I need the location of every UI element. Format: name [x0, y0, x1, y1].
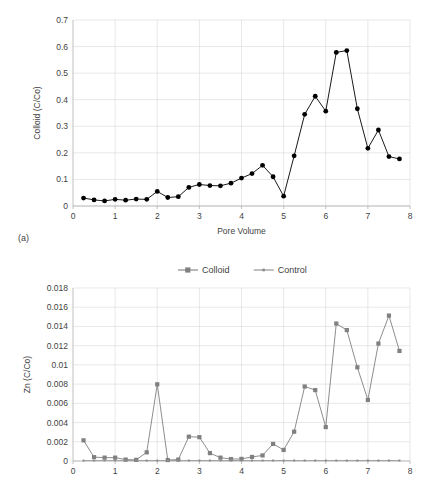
- y-tick-label: 0.3: [56, 121, 68, 131]
- legend-label-control: Control: [278, 265, 307, 275]
- data-point: [218, 183, 223, 188]
- data-point: [123, 198, 128, 203]
- data-point: [356, 460, 358, 462]
- y-tick-label: 0.006: [47, 398, 69, 408]
- x-tick-label: 4: [239, 211, 244, 221]
- data-point: [271, 174, 276, 179]
- data-point: [334, 50, 339, 55]
- y-tick-label: 0.002: [47, 437, 69, 447]
- legend-marker-colloid: [185, 267, 190, 272]
- data-point: [102, 456, 106, 460]
- data-point: [250, 455, 254, 459]
- data-point: [397, 349, 401, 353]
- data-point: [187, 435, 191, 439]
- data-point: [367, 460, 369, 462]
- data-point: [177, 460, 179, 462]
- data-point: [292, 153, 297, 158]
- y-tick-label: 0.4: [56, 95, 68, 105]
- data-point: [197, 182, 202, 187]
- data-point: [323, 109, 328, 114]
- data-point: [376, 341, 380, 345]
- y-tick-label: 0.01: [51, 360, 68, 370]
- data-point: [324, 425, 328, 429]
- data-point: [209, 460, 211, 462]
- data-point: [346, 460, 348, 462]
- data-point: [104, 459, 106, 461]
- data-point: [283, 460, 285, 462]
- data-point: [92, 455, 96, 459]
- y-tick-label: 0.008: [47, 379, 69, 389]
- data-point: [303, 384, 307, 388]
- colloid-line-chart: 00.10.20.30.40.50.60.7012345678Colloid (…: [0, 0, 429, 250]
- data-point: [218, 456, 222, 460]
- data-point: [208, 183, 213, 188]
- x-tick-label: 1: [113, 211, 118, 221]
- data-point: [93, 460, 95, 462]
- data-point: [219, 460, 221, 462]
- data-point: [230, 460, 232, 462]
- data-point: [186, 185, 191, 190]
- data-point: [146, 460, 148, 462]
- y-tick-label: 0.014: [47, 321, 69, 331]
- y-tick-label: 0.004: [47, 418, 69, 428]
- data-point: [145, 450, 149, 454]
- x-tick-label: 1: [113, 466, 118, 476]
- panel-label-a: (a): [18, 233, 29, 243]
- data-point: [387, 154, 392, 159]
- y-tick-label: 0.012: [47, 341, 69, 351]
- y-tick-label: 0.018: [47, 283, 69, 293]
- data-point: [113, 197, 118, 202]
- x-tick-label: 3: [197, 211, 202, 221]
- data-point: [344, 48, 349, 53]
- data-point: [251, 460, 253, 462]
- data-point: [271, 442, 275, 446]
- data-point: [398, 460, 400, 462]
- data-point: [83, 460, 85, 462]
- data-point: [260, 453, 264, 457]
- x-tick-label: 3: [197, 466, 202, 476]
- x-tick-label: 2: [155, 466, 160, 476]
- data-point: [313, 388, 317, 392]
- y-tick-label: 0.2: [56, 148, 68, 158]
- data-point: [262, 460, 264, 462]
- x-tick-label: 7: [366, 211, 371, 221]
- data-point: [302, 112, 307, 117]
- x-tick-label: 0: [71, 466, 76, 476]
- legend-label-colloid: Colloid: [202, 265, 230, 275]
- y-axis-title: Zn (C/Co): [22, 356, 32, 393]
- data-point: [135, 460, 137, 462]
- chart-panel-a: 00.10.20.30.40.50.60.7012345678Colloid (…: [0, 0, 429, 250]
- data-point: [293, 460, 295, 462]
- y-tick-label: 0.1: [56, 174, 68, 184]
- data-point: [113, 456, 117, 460]
- data-point: [156, 460, 158, 462]
- x-tick-label: 4: [239, 466, 244, 476]
- zn-line-chart: 00.0020.0040.0060.0080.010.0120.0140.016…: [0, 250, 429, 482]
- data-point: [114, 459, 116, 461]
- x-tick-label: 0: [71, 211, 76, 221]
- data-point: [377, 460, 379, 462]
- data-point: [165, 195, 170, 200]
- data-point: [155, 189, 160, 194]
- x-tick-label: 6: [323, 211, 328, 221]
- data-point: [282, 448, 286, 452]
- data-point: [241, 460, 243, 462]
- x-tick-label: 8: [408, 211, 413, 221]
- y-tick-label: 0.6: [56, 42, 68, 52]
- data-point: [397, 157, 402, 162]
- data-point: [125, 460, 127, 462]
- y-tick-label: 0.7: [56, 15, 68, 25]
- data-point: [188, 460, 190, 462]
- chart-panel-b: 00.0020.0040.0060.0080.010.0120.0140.016…: [0, 250, 429, 482]
- data-point: [208, 451, 212, 455]
- data-point: [229, 181, 234, 186]
- data-point: [304, 460, 306, 462]
- data-point: [197, 435, 201, 439]
- y-axis-title: Colloid (C/Co): [32, 86, 42, 140]
- x-tick-label: 8: [408, 466, 413, 476]
- data-point: [355, 365, 359, 369]
- data-point: [313, 94, 318, 99]
- data-point: [325, 460, 327, 462]
- data-point: [281, 194, 286, 199]
- data-point: [155, 382, 159, 386]
